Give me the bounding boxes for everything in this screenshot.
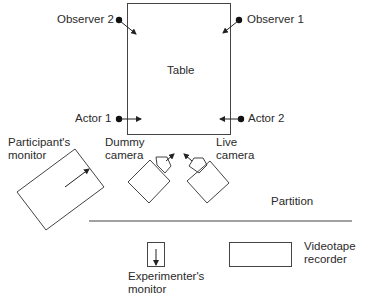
- videotape-recorder-label-line1: Videotape: [304, 240, 356, 253]
- experimenter-monitor-label-line2: monitor: [128, 283, 204, 296]
- dummy-camera-body: [128, 160, 170, 203]
- participant-monitor-label-line2: monitor: [8, 149, 70, 162]
- dummy-camera-label: Dummy camera: [105, 136, 145, 162]
- dummy-camera-label-line1: Dummy: [105, 136, 145, 149]
- observer-2-label: Observer 2: [57, 13, 114, 26]
- live-camera-body: [187, 161, 229, 203]
- partition-label: Partition: [271, 195, 313, 208]
- videotape-recorder-label: Videotape recorder: [304, 240, 356, 266]
- experimenter-monitor-label-line1: Experimenter's: [128, 270, 204, 283]
- videotape-recorder-label-line2: recorder: [304, 253, 356, 266]
- live-camera-arrow-icon: [184, 154, 192, 161]
- live-camera-label-line2: camera: [216, 149, 254, 162]
- dummy-camera-lens: [156, 157, 171, 173]
- dummy-camera-label-line2: camera: [105, 149, 145, 162]
- participant-monitor-arrow-icon: [65, 169, 89, 187]
- experimenter-monitor-label: Experimenter's monitor: [128, 270, 204, 296]
- actor-1-label: Actor 1: [75, 112, 111, 125]
- live-camera-label: Live camera: [216, 136, 254, 162]
- actor-2-label: Actor 2: [248, 112, 284, 125]
- participant-monitor-label: Participant's monitor: [8, 136, 70, 162]
- participant-monitor-label-line1: Participant's: [8, 136, 70, 149]
- observer-1-label: Observer 1: [247, 13, 304, 26]
- videotape-recorder-rect: [230, 243, 292, 267]
- live-camera-label-line1: Live: [216, 136, 254, 149]
- table-label: Table: [167, 64, 195, 77]
